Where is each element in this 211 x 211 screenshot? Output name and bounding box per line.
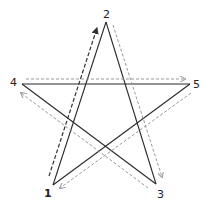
label-point-2: 2	[103, 8, 110, 21]
edge-3-4	[22, 84, 156, 184]
label-point-1: 1	[44, 187, 52, 200]
label-point-5: 5	[193, 78, 200, 91]
label-point-4: 4	[10, 76, 17, 89]
edge-1-2	[53, 22, 106, 185]
arrow-2-to-3	[113, 25, 162, 177]
arrow-5-to-1	[60, 93, 191, 188]
label-point-3: 3	[157, 188, 164, 201]
stroke-arrows	[21, 25, 191, 188]
point-labels: 1 2 3 4 5	[10, 8, 200, 201]
arrow-1-to-2	[49, 28, 97, 176]
arrow-3-to-4	[21, 93, 148, 188]
edge-2-3	[106, 22, 156, 184]
star-lines	[22, 22, 190, 185]
pentagram-diagram: 1 2 3 4 5	[0, 0, 211, 211]
